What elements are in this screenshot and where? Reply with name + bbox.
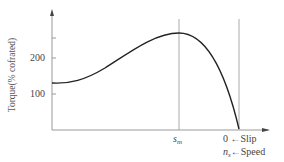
ns-symbol: ns	[223, 146, 231, 157]
slip-label: 0 ←Slip	[223, 133, 257, 144]
y-tick-label-200: 200	[30, 52, 45, 63]
y-axis-label: Torque(% cofrated)	[7, 38, 17, 113]
x-axis-arrow-icon	[262, 128, 270, 132]
y-tick-label-100: 100	[30, 88, 45, 99]
arrow-left-icon: ←	[231, 133, 241, 144]
slip-text: Slip	[241, 133, 257, 144]
speed-text: Speed	[241, 146, 265, 157]
zero-slip: 0	[223, 133, 228, 144]
y-axis-arrow-icon	[50, 9, 54, 16]
speed-label: ns←Speed	[223, 146, 265, 159]
torque-curve	[52, 33, 239, 129]
sm-label: sm	[173, 133, 182, 146]
arrow-left-icon: ←	[231, 146, 241, 157]
